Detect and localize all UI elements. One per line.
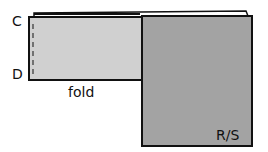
label-fold: fold: [68, 84, 94, 100]
label-rs: R/S: [216, 127, 239, 143]
label-d: D: [12, 66, 23, 82]
folded-panel: [29, 17, 142, 80]
label-c: C: [12, 13, 22, 29]
fold-diagram: C D fold R/S: [0, 0, 268, 152]
